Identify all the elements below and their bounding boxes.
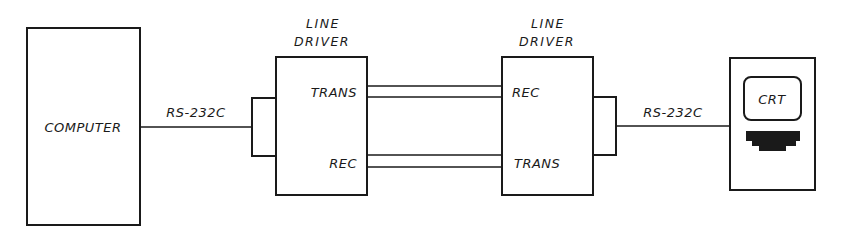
line-driver-right-box: [502, 57, 593, 195]
driver-pair-top: [367, 86, 502, 97]
crt-terminal: CRT: [730, 58, 815, 190]
left-serial-link: RS-232C: [140, 98, 276, 156]
line-driver-left-port-trans: TRANS: [311, 85, 357, 100]
line-driver-left-port-rec: REC: [329, 156, 357, 171]
line-driver-right-port-trans: TRANS: [514, 156, 560, 171]
right-serial-label: RS-232C: [643, 105, 703, 120]
right-serial-link: RS-232C: [593, 97, 730, 155]
line-driver-left: LINE DRIVER TRANS REC: [276, 16, 367, 195]
computer-label: COMPUTER: [44, 120, 121, 135]
crt-screen-label: CRT: [758, 92, 786, 107]
line-driver-right-port-rec: REC: [512, 85, 540, 100]
line-driver-left-box: [276, 57, 367, 195]
right-connector: [593, 97, 616, 155]
computer-block: COMPUTER: [27, 28, 140, 225]
line-driver-left-title-2: DRIVER: [294, 34, 350, 49]
line-driver-right-title-2: DRIVER: [519, 34, 575, 49]
keyboard-icon: [746, 131, 800, 151]
diagram-canvas: COMPUTER RS-232C LINE DRIVER TRANS REC L…: [0, 0, 843, 228]
left-connector: [252, 98, 276, 156]
line-driver-right-title-1: LINE: [531, 16, 565, 31]
left-serial-label: RS-232C: [166, 105, 226, 120]
line-driver-left-title-1: LINE: [306, 16, 340, 31]
driver-pair-bottom: [367, 155, 502, 167]
line-driver-right: LINE DRIVER REC TRANS: [502, 16, 593, 195]
